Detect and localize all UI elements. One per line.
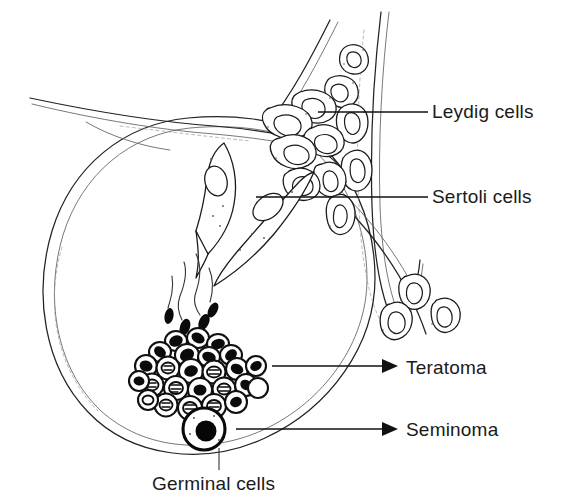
leydig-cluster-lower (380, 274, 460, 339)
label-germinal-cells: Germinal cells (152, 473, 275, 494)
germ-cell (225, 391, 247, 413)
germ-cell (246, 356, 266, 376)
label-teratoma: Teratoma (406, 357, 487, 378)
leydig-cell (326, 194, 355, 234)
testis-histology-diagram: Leydig cells Sertoli cells Teratoma Semi… (0, 0, 575, 499)
leydig-cell (340, 45, 369, 74)
germ-cell (138, 390, 158, 410)
label-leydig-cells: Leydig cells (432, 101, 534, 122)
germ-cell (129, 371, 149, 391)
label-seminoma: Seminoma (406, 419, 499, 440)
seminoma-cell (183, 408, 225, 450)
leydig-cell (270, 135, 316, 169)
germ-cell (248, 378, 268, 398)
label-sertoli-cells: Sertoli cells (432, 186, 532, 207)
teratoma-mass (129, 328, 268, 420)
sertoli-cell (196, 143, 236, 278)
leydig-cell (431, 298, 460, 332)
leydig-cell (380, 302, 412, 339)
spermatozoa (163, 254, 221, 337)
